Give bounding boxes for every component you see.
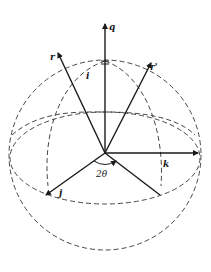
label-r-prime: r' bbox=[150, 62, 158, 72]
label-q: q bbox=[109, 22, 115, 32]
label-k: k bbox=[163, 159, 169, 169]
label-i: i bbox=[86, 71, 90, 81]
vector-r-prime bbox=[105, 63, 151, 153]
meridian-left bbox=[47, 61, 105, 186]
sphere-diagram: q r i r' k j 2θ bbox=[0, 0, 211, 272]
diagram-canvas: q r i r' k j 2θ bbox=[0, 0, 211, 272]
vector-r bbox=[58, 53, 105, 153]
label-r: r bbox=[50, 52, 56, 62]
label-j: j bbox=[57, 188, 63, 198]
meridian-right bbox=[105, 61, 162, 186]
label-angle: 2θ bbox=[95, 169, 108, 179]
vector-lower-right bbox=[105, 153, 160, 195]
angle-arc bbox=[94, 161, 116, 165]
latitude-arc bbox=[12, 112, 195, 135]
